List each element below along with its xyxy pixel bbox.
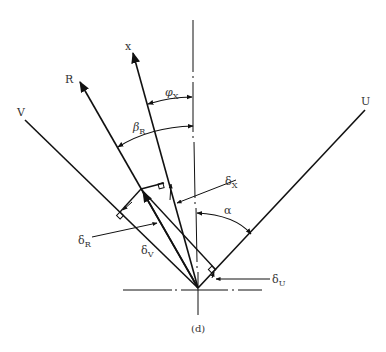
delta-r-leader xyxy=(92,223,157,237)
right-angle-marker-x xyxy=(158,183,164,189)
label-delta-v: δV xyxy=(141,244,154,259)
label-delta-u: δU xyxy=(272,273,286,288)
label-phi-x: φX xyxy=(165,86,179,101)
label-x: x xyxy=(125,40,132,53)
v-axis-line xyxy=(25,120,198,288)
figure-caption: (d) xyxy=(191,323,205,334)
label-r: R xyxy=(65,73,74,86)
vector-diagram: x R V U φX βR α δX δR δV δU (d) xyxy=(0,0,386,352)
label-delta-r: δR xyxy=(78,234,92,249)
delta-v-vector xyxy=(143,192,198,288)
u-axis-line xyxy=(198,110,365,288)
label-alpha: α xyxy=(224,204,232,217)
label-delta-x: δX xyxy=(225,175,238,190)
projection-to-v xyxy=(120,189,141,212)
label-u: U xyxy=(361,95,370,108)
label-v: V xyxy=(16,106,26,119)
label-beta-r: βR xyxy=(132,121,146,136)
